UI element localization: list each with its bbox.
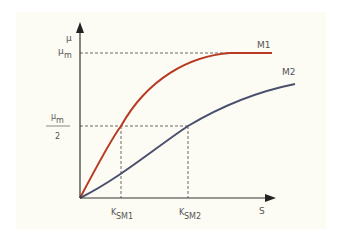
chart-svg: μ μ m μ m 2 K SM1 K SM2 S M1 M2 (0, 0, 340, 241)
m2-series-label: M2 (282, 67, 296, 77)
ksm2-subscript: SM2 (184, 212, 201, 221)
ksm1-subscript: SM1 (116, 212, 133, 221)
mu-half-subscript: m (56, 116, 64, 125)
x-axis-arrow-icon (265, 194, 276, 202)
mu-half-denominator: 2 (55, 132, 60, 141)
m1-series-label: M1 (257, 40, 271, 50)
x-axis-label: S (259, 206, 265, 216)
mu-m-subscript: m (64, 51, 72, 60)
m1-curve (80, 53, 272, 198)
y-axis-label: μ (66, 33, 72, 43)
y-axis-arrow-icon (76, 22, 84, 33)
